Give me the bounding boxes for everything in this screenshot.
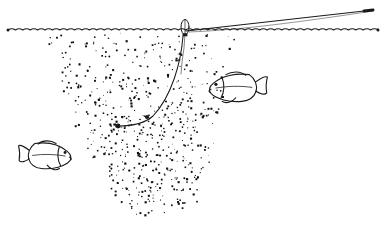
chum-particle <box>183 144 185 146</box>
chum-particle <box>186 178 188 180</box>
chum-particle <box>187 78 188 79</box>
chum-particle <box>175 60 177 62</box>
chum-particle <box>183 177 185 179</box>
chum-particle <box>139 65 140 66</box>
chum-particle <box>109 166 111 168</box>
chum-particle <box>124 162 126 164</box>
chum-particle <box>172 102 173 103</box>
chum-particle <box>49 37 50 38</box>
chum-particle <box>178 53 179 54</box>
chum-particle <box>124 54 126 56</box>
chum-particle <box>108 153 110 155</box>
chum-particle <box>137 152 139 154</box>
chum-particle <box>159 55 161 57</box>
chum-particle <box>136 187 137 188</box>
chum-particle <box>174 149 175 150</box>
chum-particle <box>107 64 109 66</box>
chum-particle <box>97 150 99 152</box>
chum-particle <box>126 144 127 145</box>
fishing-scene-drawing <box>0 0 389 225</box>
chum-particle <box>204 149 206 151</box>
chum-particle <box>187 121 188 122</box>
chum-particle <box>182 126 184 128</box>
chum-particle <box>157 154 159 156</box>
chum-particle <box>113 107 115 109</box>
chum-particle <box>133 167 135 169</box>
chum-particle <box>150 191 151 192</box>
chum-particle <box>121 201 123 203</box>
chum-particle <box>111 131 113 133</box>
chum-particle <box>200 144 202 146</box>
chum-particle <box>129 97 131 99</box>
chum-particle <box>145 52 146 53</box>
chum-particle <box>115 151 117 153</box>
chum-particle <box>213 143 214 144</box>
chum-particle <box>117 166 118 167</box>
chum-particle <box>127 151 129 153</box>
chum-particle <box>127 146 129 148</box>
chum-particle <box>197 176 199 178</box>
chum-particle <box>109 91 111 93</box>
chum-particle <box>130 102 132 104</box>
chum-particle <box>156 183 158 185</box>
chum-particle <box>186 160 187 161</box>
chum-particle <box>146 95 147 96</box>
chum-particle <box>163 116 164 117</box>
chum-particle <box>148 186 149 187</box>
chum-particle <box>163 128 164 129</box>
chum-particle <box>145 152 147 154</box>
fish-eye <box>214 83 217 86</box>
chum-particle <box>182 160 184 162</box>
chum-particle <box>120 106 121 107</box>
chum-particle <box>98 99 100 101</box>
chum-particle <box>76 75 78 77</box>
chum-particle <box>93 141 94 142</box>
chum-particle <box>148 81 149 82</box>
chum-particle <box>160 61 161 62</box>
chum-particle <box>112 153 113 154</box>
chum-particle <box>69 46 71 48</box>
chum-particle <box>197 145 199 147</box>
chum-particle <box>186 92 188 94</box>
chum-particle <box>167 170 168 171</box>
chum-particle <box>109 141 110 142</box>
chum-particle <box>176 189 177 190</box>
chum-particle <box>111 164 113 166</box>
chum-particle <box>202 84 203 85</box>
chum-particle <box>161 43 163 45</box>
chum-particle <box>140 119 141 120</box>
chum-particle <box>147 77 149 79</box>
chum-particle <box>101 146 103 148</box>
chum-particle <box>118 130 119 131</box>
chum-particle <box>184 132 186 134</box>
chum-particle <box>133 145 135 147</box>
chum-particle <box>196 201 198 203</box>
chum-particle <box>131 200 132 201</box>
chum-particle <box>176 58 178 60</box>
chum-particle <box>158 146 160 148</box>
chum-particle <box>160 57 161 58</box>
chum-particle <box>62 57 64 59</box>
chum-particle <box>190 138 192 140</box>
chum-particle <box>130 120 132 122</box>
chum-particle <box>128 116 130 118</box>
chum-particle <box>171 185 173 187</box>
chum-particle <box>173 88 175 90</box>
chum-particle <box>133 181 135 183</box>
chum-particle <box>105 137 107 139</box>
chum-particle <box>187 127 188 128</box>
chum-particle <box>128 77 130 79</box>
chum-particle <box>131 208 132 209</box>
chum-particle <box>94 129 96 131</box>
chum-particle <box>115 194 117 196</box>
chum-particle <box>176 82 177 83</box>
chum-particle <box>160 200 161 201</box>
paper-background <box>0 0 389 225</box>
chum-particle <box>153 49 154 50</box>
chum-particle <box>164 114 166 116</box>
chum-particle <box>86 43 87 44</box>
chum-particle <box>177 60 178 61</box>
chum-particle <box>192 149 193 150</box>
chum-particle <box>180 66 181 67</box>
chum-particle <box>172 69 173 70</box>
